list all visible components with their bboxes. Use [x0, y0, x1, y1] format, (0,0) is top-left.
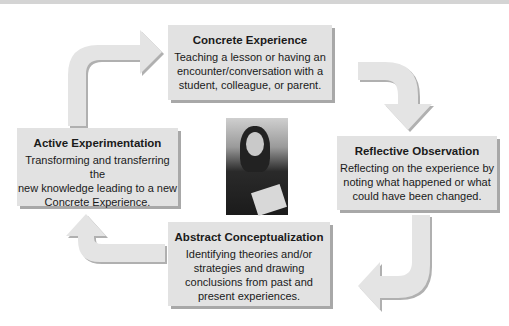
stage-reflective-observation: Reflective Observation Reflecting on the… — [337, 136, 497, 210]
description-line: encounter/conversation with a — [168, 64, 332, 78]
arrow-reflective-to-abstract-icon — [358, 215, 432, 312]
stage-description: Transforming and transferring the new kn… — [17, 153, 178, 209]
stage-title: Reflective Observation — [337, 144, 497, 159]
arrow-concrete-to-reflective-icon — [358, 62, 434, 132]
description-line: Identifying theories and/or — [168, 247, 330, 261]
photo-paper — [251, 184, 287, 216]
stage-title: Active Experimentation — [17, 136, 178, 151]
stage-concrete-experience: Concrete Experience Teaching a lesson or… — [168, 25, 332, 100]
description-line: Reflecting on the experience by — [337, 161, 497, 175]
stage-description: Reflecting on the experience by noting w… — [337, 161, 497, 203]
description-line: conclusions from past and — [168, 275, 330, 289]
description-line: student, colleague, or parent. — [168, 78, 332, 92]
teacher-photo — [226, 118, 288, 215]
photo-face — [246, 132, 264, 156]
description-line: present experiences. — [168, 289, 330, 303]
stage-title: Concrete Experience — [168, 33, 332, 48]
description-line: noting what happened or what — [337, 175, 497, 189]
description-line: Teaching a lesson or having an — [168, 50, 332, 64]
description-line: Concrete Experience. — [17, 195, 178, 209]
arrow-active-to-concrete-icon — [68, 30, 164, 128]
stage-description: Teaching a lesson or having an encounter… — [168, 50, 332, 92]
description-line: strategies and drawing — [168, 261, 330, 275]
stage-active-experimentation: Active Experimentation Transforming and … — [17, 128, 178, 206]
description-line: new knowledge leading to a new — [17, 181, 178, 195]
description-line: Transforming and transferring the — [17, 153, 178, 181]
arrow-abstract-to-active-icon — [66, 214, 167, 264]
stage-abstract-conceptualization: Abstract Conceptualization Identifying t… — [168, 222, 330, 306]
description-line: could have been changed. — [337, 189, 497, 203]
stage-description: Identifying theories and/or strategies a… — [168, 247, 330, 303]
stage-title: Abstract Conceptualization — [168, 230, 330, 245]
